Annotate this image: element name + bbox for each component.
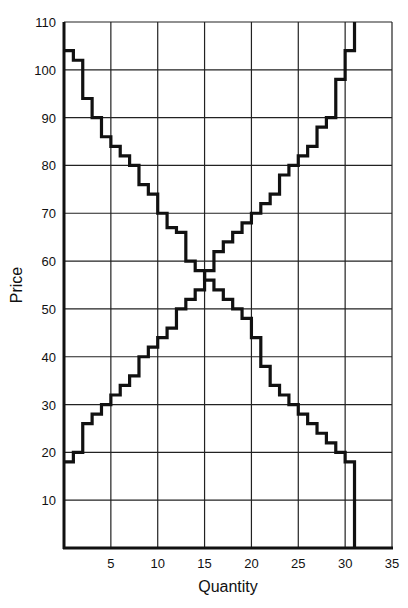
y-tick-label: 70 <box>42 206 56 221</box>
y-tick-label: 100 <box>34 63 56 78</box>
x-tick-label: 15 <box>197 556 211 571</box>
x-tick-label: 35 <box>385 556 399 571</box>
x-axis-ticks: 5101520253035 <box>107 556 399 571</box>
y-tick-label: 80 <box>42 158 56 173</box>
y-tick-label: 110 <box>35 15 56 30</box>
step-chart: 5101520253035 102030405060708090100110 Q… <box>0 0 408 608</box>
y-tick-label: 40 <box>42 350 56 365</box>
x-tick-label: 20 <box>244 556 258 571</box>
y-axis-ticks: 102030405060708090100110 <box>34 15 56 508</box>
y-tick-label: 30 <box>42 398 56 413</box>
x-tick-label: 5 <box>107 556 114 571</box>
y-tick-label: 10 <box>42 493 56 508</box>
y-tick-label: 20 <box>42 445 56 460</box>
axes <box>63 22 393 549</box>
x-tick-label: 30 <box>338 556 352 571</box>
gridlines <box>64 22 392 548</box>
y-axis-title: Price <box>8 267 25 304</box>
x-tick-label: 25 <box>291 556 305 571</box>
x-axis-title: Quantity <box>198 578 258 595</box>
y-tick-label: 90 <box>42 111 56 126</box>
y-tick-label: 50 <box>42 302 56 317</box>
series-layer <box>64 22 355 548</box>
y-tick-label: 60 <box>42 254 56 269</box>
x-tick-label: 10 <box>150 556 164 571</box>
supply-curve <box>64 22 355 462</box>
demand-curve <box>64 51 355 548</box>
